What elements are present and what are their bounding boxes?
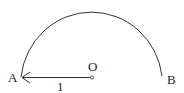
segment-length-label: 1: [57, 80, 64, 93]
point-label-a: A: [8, 71, 17, 84]
point-label-o: O: [88, 60, 97, 73]
semicircle-diagram: [0, 0, 184, 93]
point-label-b: B: [167, 73, 176, 86]
center-point-O: [90, 76, 93, 79]
